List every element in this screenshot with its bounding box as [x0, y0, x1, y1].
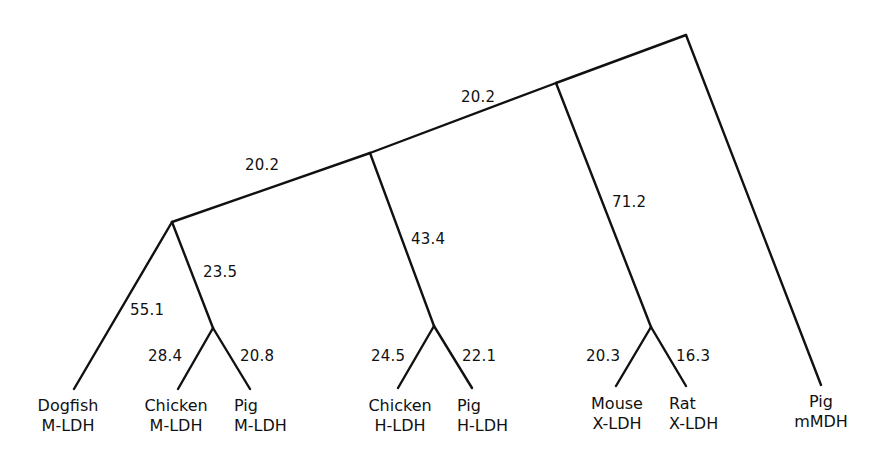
leaf-enzyme: M-LDH [38, 416, 99, 436]
leaf-enzyme: H-LDH [457, 416, 508, 436]
leaf-enzyme: H-LDH [368, 416, 431, 436]
leaf-rat-xldh: Rat X-LDH [669, 394, 718, 434]
branch-root-to-pig-mmdh [686, 35, 821, 385]
leaf-pig-mmdh: Pig mMDH [794, 392, 848, 432]
leaf-species: Chicken [144, 396, 207, 416]
branch-F-to-mouse [616, 327, 651, 386]
branch-root-to-C [556, 35, 686, 83]
leaf-species: Chicken [368, 396, 431, 416]
branch-length-upper: 20.2 [461, 90, 495, 105]
leaf-species: Pig [234, 396, 287, 416]
leaf-species: Pig [457, 396, 508, 416]
branch-length-B-E: 43.4 [411, 232, 445, 247]
leaf-enzyme: M-LDH [234, 416, 287, 436]
leaf-species: Pig [794, 392, 848, 412]
branch-length-B-A: 20.2 [245, 158, 279, 173]
leaf-species: Rat [669, 394, 718, 414]
branch-length-F-rat: 16.3 [676, 349, 710, 364]
branch-length-A-D: 23.5 [203, 265, 237, 280]
branch-D-to-chicken-mldh [178, 328, 213, 389]
leaf-enzyme: mMDH [794, 412, 848, 432]
leaf-species: Dogfish [38, 396, 99, 416]
leaf-enzyme: M-LDH [144, 416, 207, 436]
branch-length-E-chicken: 24.5 [371, 349, 405, 364]
branch-length-A-dogfish: 55.1 [130, 303, 164, 318]
branch-length-F-mouse: 20.3 [586, 349, 620, 364]
leaf-species: Mouse [591, 394, 643, 414]
leaf-pig-mldh: Pig M-LDH [234, 396, 287, 436]
leaf-chicken-mldh: Chicken M-LDH [144, 396, 207, 436]
branch-length-E-pig: 22.1 [462, 349, 496, 364]
leaf-enzyme: X-LDH [669, 414, 718, 434]
leaf-chicken-hldh: Chicken H-LDH [368, 396, 431, 436]
branch-length-D-pig: 20.8 [240, 349, 274, 364]
leaf-enzyme: X-LDH [591, 414, 643, 434]
leaf-dogfish-mldh: Dogfish M-LDH [38, 396, 99, 436]
leaf-mouse-xldh: Mouse X-LDH [591, 394, 643, 434]
leaf-pig-hldh: Pig H-LDH [457, 396, 508, 436]
branch-length-D-chicken: 28.4 [148, 349, 182, 364]
branch-length-C-F: 71.2 [612, 195, 646, 210]
